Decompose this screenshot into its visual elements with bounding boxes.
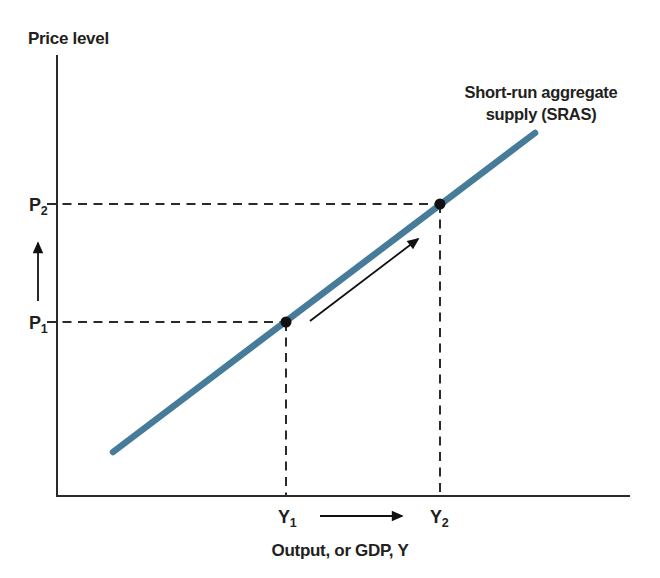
sras-diagram: Price level Short-run aggregate supply (… [0,0,660,578]
point-y1-p1 [281,317,292,328]
y-axis-title: Price level [28,29,109,48]
tick-label-p2-sub: 2 [41,204,48,218]
sras-label-line1: Short-run aggregate [465,83,618,101]
tick-label-y1-sub: 1 [290,516,297,530]
tick-label-y1-base: Y [278,507,290,527]
tick-label-p2-base: P [29,195,41,215]
tick-label-p1-base: P [29,313,41,333]
point-y2-p2 [435,199,446,210]
tick-label-y2-base: Y [430,507,442,527]
sras-label-line2: supply (SRAS) [486,105,597,123]
tick-label-y2-sub: 2 [442,516,449,530]
x-axis-title: Output, or GDP, Y [272,541,410,560]
tick-label-p1-sub: 1 [41,322,48,336]
